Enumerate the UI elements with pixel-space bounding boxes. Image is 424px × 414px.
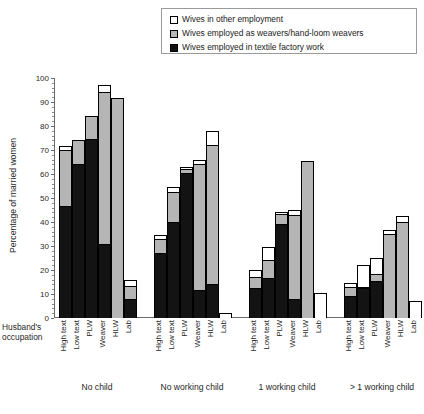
- bar-segment: [249, 270, 262, 277]
- x-axis-group-labels: No childNo working child1 working child>…: [54, 382, 419, 398]
- y-axis-minor-tick-mark: [52, 184, 54, 185]
- x-axis-category-label: PLW: [180, 320, 193, 337]
- y-axis-minor-tick-mark: [52, 136, 54, 137]
- x-axis-category-label: Weaver: [288, 320, 301, 347]
- bar-segment: [370, 274, 383, 281]
- x-axis-category-label: Low text: [72, 320, 85, 350]
- x-axis-group-label: No child: [52, 382, 142, 392]
- stacked-bar: [383, 230, 396, 318]
- y-axis-tick-mark: [51, 150, 54, 151]
- y-axis-minor-tick-mark: [52, 313, 54, 314]
- x-axis-group-label: 1 working child: [242, 382, 332, 392]
- stacked-bar: [288, 210, 301, 318]
- y-axis-tick-mark: [51, 198, 54, 199]
- y-axis-minor-tick-mark: [52, 140, 54, 141]
- y-axis-title: Percentage of married women: [8, 100, 22, 290]
- x-axis-category-label: Weaver: [193, 320, 206, 347]
- bar-segment: [396, 222, 409, 318]
- y-axis-minor-tick-mark: [52, 203, 54, 204]
- stacked-bar: [98, 85, 111, 318]
- x-axis-category-label: Lab: [314, 320, 327, 333]
- stacked-bar: [314, 293, 327, 318]
- bar-series-container: [55, 78, 414, 318]
- white-square-icon: [170, 16, 178, 24]
- stacked-bar: [409, 301, 422, 318]
- bar-segment: [72, 164, 85, 318]
- bar-segment: [154, 239, 167, 253]
- y-axis-minor-tick-mark: [52, 83, 54, 84]
- y-axis-minor-tick-mark: [52, 169, 54, 170]
- bar-segment: [193, 290, 206, 318]
- y-axis-minor-tick-mark: [52, 299, 54, 300]
- legend-item-other: Wives in other employment: [170, 13, 416, 26]
- y-axis-minor-tick-mark: [52, 260, 54, 261]
- bar-segment: [314, 293, 327, 318]
- x-axis-category-label: HLW: [111, 320, 124, 337]
- x-axis-group-label: No working child: [147, 382, 237, 392]
- x-axis-category-label: HLW: [301, 320, 314, 337]
- bar-segment: [262, 247, 275, 260]
- stacked-bar: [59, 146, 72, 318]
- y-axis-tick-mark: [51, 246, 54, 247]
- legend-item-weaver: Wives employed as weavers/hand-loom weav…: [170, 27, 416, 40]
- bar-segment: [59, 206, 72, 318]
- legend-label-other: Wives in other employment: [182, 15, 283, 24]
- chart-plot-area: 0102030405060708090100: [54, 78, 414, 318]
- stacked-bar: [396, 216, 409, 318]
- x-axis-category-label: Weaver: [98, 320, 111, 347]
- bar-segment: [357, 288, 370, 318]
- y-axis-minor-tick-mark: [52, 116, 54, 117]
- bar-segment: [249, 288, 262, 318]
- y-axis-minor-tick-mark: [52, 107, 54, 108]
- y-axis-minor-tick-mark: [52, 304, 54, 305]
- bar-segment: [344, 287, 357, 297]
- stacked-bar: [249, 270, 262, 318]
- bar-segment: [219, 313, 232, 318]
- x-axis-category-label: High text: [154, 320, 167, 352]
- bar-segment: [357, 265, 370, 287]
- stacked-bar: [262, 247, 275, 318]
- y-axis-minor-tick-mark: [52, 227, 54, 228]
- bar-segment: [98, 85, 111, 92]
- x-axis-row-header: Husband's occupation: [2, 322, 54, 342]
- y-axis-minor-tick-mark: [52, 97, 54, 98]
- x-axis-group-label: > 1 working child: [337, 382, 424, 392]
- y-axis-tick-mark: [51, 102, 54, 103]
- bar-segment: [59, 150, 72, 206]
- y-axis-tick-mark: [51, 294, 54, 295]
- y-axis-minor-tick-mark: [52, 284, 54, 285]
- x-axis-row-header-line1: Husband's: [2, 322, 54, 332]
- y-axis-minor-tick-mark: [52, 193, 54, 194]
- bar-segment: [275, 214, 288, 225]
- stacked-bar: [111, 98, 124, 318]
- bar-segment: [206, 145, 219, 284]
- stacked-bar: [357, 265, 370, 318]
- bar-segment: [85, 116, 98, 139]
- y-axis-minor-tick-mark: [52, 217, 54, 218]
- y-axis-tick-mark: [51, 126, 54, 127]
- bar-segment: [206, 284, 219, 318]
- y-axis-minor-tick-mark: [52, 212, 54, 213]
- y-axis-minor-tick-mark: [52, 112, 54, 113]
- y-axis-minor-tick-mark: [52, 88, 54, 89]
- bar-segment: [301, 161, 314, 318]
- y-axis-title-text: Percentage of married women: [8, 100, 18, 290]
- stacked-bar: [370, 258, 383, 318]
- x-axis-category-label: HLW: [396, 320, 409, 337]
- bar-segment: [154, 253, 167, 318]
- y-axis-minor-tick-mark: [52, 256, 54, 257]
- y-axis-minor-tick-mark: [52, 251, 54, 252]
- y-axis-minor-tick-mark: [52, 280, 54, 281]
- x-axis-category-label: PLW: [370, 320, 383, 337]
- y-axis-tick-mark: [51, 222, 54, 223]
- legend-label-factory: Wives employed in textile factory work: [182, 43, 324, 52]
- bar-segment: [180, 173, 193, 318]
- bar-segment: [111, 98, 124, 318]
- x-axis-row-header-line2: occupation: [2, 332, 54, 342]
- bar-segment: [288, 299, 301, 318]
- legend: Wives in other employment Wives employed…: [161, 8, 417, 54]
- y-axis-minor-tick-mark: [52, 232, 54, 233]
- bar-segment: [262, 260, 275, 278]
- legend-label-weaver: Wives employed as weavers/hand-loom weav…: [182, 29, 364, 38]
- x-axis-category-label: PLW: [85, 320, 98, 337]
